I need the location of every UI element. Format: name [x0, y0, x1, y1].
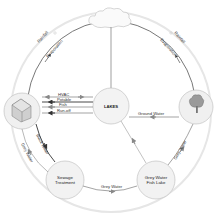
sewage-label-line2: Treatment	[55, 180, 76, 185]
rainfall-left-label: Rainfall	[36, 30, 49, 44]
fish-lake-node[interactable]: Grey Water Fish Lake	[137, 161, 175, 199]
runoff-label: Run-off	[57, 108, 71, 113]
tree-node[interactable]	[179, 90, 213, 124]
water-cycle-diagram: LAKES Sewage Treatment Grey Water Fish L…	[0, 0, 223, 216]
rainfall-right-label: Rainfall	[173, 30, 186, 44]
evaporation-left-label: Evaporation	[45, 38, 64, 58]
fishlake-label-line2: Fish Lake	[146, 180, 166, 185]
rainfall-dot-left	[54, 32, 56, 34]
evaporation-arc-left	[28, 22, 98, 96]
house-node[interactable]	[4, 93, 40, 129]
sewage-treatment-node[interactable]: Sewage Treatment	[46, 161, 84, 199]
evaporation-right-label: Evaporation	[159, 37, 178, 57]
evaporation-arc-right	[124, 22, 195, 96]
cloud-icon	[89, 8, 131, 28]
grey-water-right-label: Grey Water	[173, 139, 188, 160]
lakes-node[interactable]: LAKES	[93, 88, 129, 124]
grey-water-bottom-label: Grey Water	[101, 184, 123, 189]
ground-water-label: Ground Water	[138, 111, 165, 116]
fish-label: Fish	[59, 102, 68, 107]
lakes-label: LAKES	[104, 104, 118, 109]
hvac-label: HVAC	[58, 92, 69, 97]
black-water-label: Black Water	[35, 133, 50, 156]
